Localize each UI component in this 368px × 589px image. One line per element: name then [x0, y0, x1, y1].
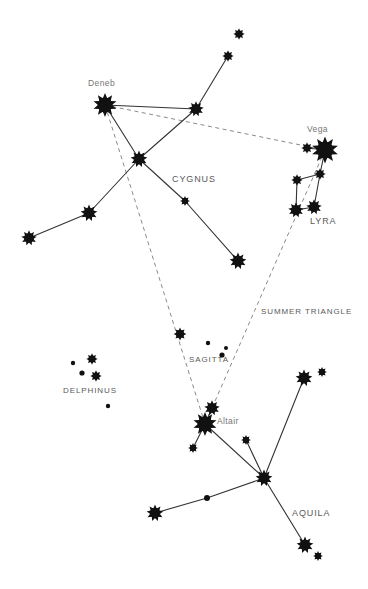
- star-delphinus-b: [86, 353, 97, 364]
- line-gienah-w-wingtip: [29, 213, 89, 238]
- star-aquila-theta: [204, 495, 210, 501]
- star-core: [198, 417, 213, 432]
- star-lyra-epsilon: [301, 142, 312, 153]
- star-core: [315, 553, 321, 559]
- star-lyra-gamma: [306, 199, 321, 214]
- star-dot: [106, 404, 110, 408]
- star-aquila-alshain: [188, 443, 198, 453]
- star-dot: [79, 370, 84, 375]
- star-sagitta-gamma: [174, 328, 187, 341]
- star-core: [24, 233, 34, 243]
- star-core: [191, 104, 201, 114]
- star-core: [190, 445, 196, 451]
- star-delphinus-e: [106, 404, 110, 408]
- star-delphinus-a: [71, 361, 75, 365]
- star-aquila-epsilon: [317, 367, 327, 377]
- star-core: [182, 198, 188, 204]
- star-core: [319, 369, 325, 375]
- line-eta-zeta: [264, 378, 304, 478]
- star-core: [88, 355, 95, 362]
- star-altair: [194, 412, 217, 436]
- star-sagitta-alpha: [224, 346, 228, 350]
- star-core: [291, 205, 301, 215]
- line-deneb-gienah-e: [105, 105, 196, 109]
- star-core: [84, 208, 95, 219]
- star-aquila-south-tip: [313, 551, 323, 561]
- line-theta-lambda: [155, 498, 207, 513]
- star-cygnus-upper: [222, 50, 233, 61]
- line-eta-theta: [207, 478, 264, 498]
- star-aquila-zeta: [296, 369, 313, 386]
- star-dot: [71, 361, 75, 365]
- star-core: [243, 437, 249, 443]
- star-core: [303, 144, 310, 151]
- star-core: [207, 403, 217, 413]
- star-dot: [206, 341, 210, 345]
- star-lyra-zeta: [314, 168, 325, 179]
- star-delphinus-c: [79, 370, 84, 375]
- star-core: [309, 202, 319, 212]
- star-aquila-lambda: [147, 504, 164, 521]
- triangle-deneb-vega: [105, 105, 325, 150]
- star-sagitta-beta: [219, 352, 224, 357]
- star-core: [259, 473, 270, 484]
- constellation-lines: [29, 56, 325, 545]
- star-lyra-delta: [291, 174, 302, 185]
- star-chart-figure: DenebVegaAltairCYGNUSLYRAAQUILASAGITTADE…: [0, 0, 368, 589]
- star-delphinus-d: [90, 370, 101, 381]
- star-aquila-tarazed: [204, 400, 219, 415]
- line-delta-eta: [246, 440, 264, 478]
- star-vega: [312, 137, 338, 164]
- star-core: [233, 256, 244, 267]
- star-dot: [224, 346, 228, 350]
- star-core: [235, 30, 242, 37]
- line-sadr-gienah-w: [89, 159, 139, 213]
- line-sadr-gienah-e: [139, 109, 196, 159]
- star-sagitta-delta: [206, 341, 210, 345]
- star-core: [293, 176, 300, 183]
- star-core: [98, 98, 113, 113]
- sky-canvas: [0, 0, 368, 589]
- star-core: [134, 154, 145, 165]
- line-eta-albireo: [185, 201, 238, 261]
- line-sadr-eta: [139, 159, 185, 201]
- star-core: [316, 170, 323, 177]
- star-core: [300, 540, 311, 551]
- star-core: [92, 372, 99, 379]
- star-aquila-delta: [241, 435, 251, 445]
- line-altair-eta: [205, 424, 264, 478]
- star-core: [176, 330, 184, 338]
- star-cygnus-top: [233, 28, 244, 39]
- star-core: [150, 508, 161, 519]
- triangle-altair-deneb: [105, 105, 205, 424]
- star-core: [317, 142, 334, 159]
- star-aquila-south: [297, 536, 314, 553]
- line-gienah-e-up: [196, 56, 228, 109]
- star-cygnus-eta: [180, 196, 190, 206]
- star-core: [224, 52, 231, 59]
- star-core: [299, 373, 310, 384]
- star-dot: [204, 495, 210, 501]
- line-eta-south: [264, 478, 305, 545]
- star-dot: [219, 352, 224, 357]
- star-cygnus-wing-tip: [21, 230, 36, 245]
